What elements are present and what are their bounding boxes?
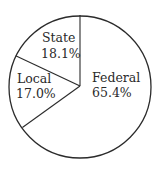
federal-label: Federal — [92, 70, 140, 85]
local-label: Local — [17, 71, 51, 86]
state-label: State — [42, 30, 75, 45]
slice-state: State 18.1% — [41, 30, 81, 61]
pie-chart: Federal 65.4% State 18.1% Local 17.0% — [0, 0, 159, 170]
state-value: 18.1% — [41, 46, 81, 61]
local-value: 17.0% — [16, 86, 56, 101]
slice-local: Local 17.0% — [16, 71, 56, 101]
federal-value: 65.4% — [92, 85, 132, 100]
